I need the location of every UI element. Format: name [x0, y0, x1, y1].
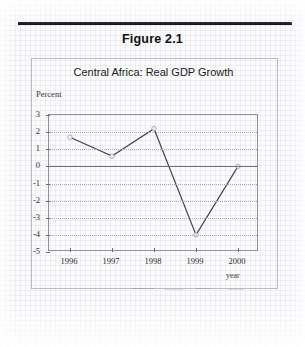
y-axis-tick-label: -1: [18, 178, 40, 188]
y-axis-tick: [46, 252, 50, 253]
x-axis-tick-label: 2000: [217, 256, 257, 266]
y-axis-tick-label: 2: [18, 126, 40, 136]
y-axis-tick-label: 3: [18, 109, 40, 119]
figure-number-title: Figure 2.1: [0, 32, 305, 46]
x-axis-tick-label: 1996: [49, 256, 89, 266]
x-axis-label: year: [226, 271, 240, 280]
gridline: [49, 235, 257, 236]
y-axis-tick: [46, 235, 50, 236]
gridline: [49, 218, 257, 219]
x-axis-tick: [196, 248, 197, 252]
y-axis-tick-label: -4: [18, 229, 40, 239]
y-axis-tick-label: -2: [18, 195, 40, 205]
plot-area: [48, 114, 258, 251]
gridline: [49, 132, 257, 133]
x-axis-tick: [154, 248, 155, 252]
y-axis-tick: [46, 218, 50, 219]
zero-line: [49, 166, 257, 167]
x-axis-tick-label: 1998: [133, 256, 173, 266]
x-axis-tick: [238, 248, 239, 252]
y-axis-tick-label: -5: [18, 246, 40, 256]
gridline: [49, 201, 257, 202]
x-axis-tick: [112, 248, 113, 252]
scan-artifact: [132, 288, 154, 289]
y-axis-tick: [46, 184, 50, 185]
y-axis-tick-label: 0: [18, 160, 40, 170]
data-point-marker: [152, 127, 156, 131]
scan-artifact: [165, 289, 183, 290]
x-axis-tick-label: 1997: [91, 256, 131, 266]
y-axis-tick: [46, 115, 50, 116]
x-axis-tick: [70, 248, 71, 252]
y-axis-tick: [46, 132, 50, 133]
gridline: [49, 184, 257, 185]
y-axis-tick: [46, 166, 50, 167]
chart-title: Central Africa: Real GDP Growth: [31, 66, 276, 78]
figure-page: Figure 2.1 Central Africa: Real GDP Grow…: [0, 0, 305, 347]
x-axis-tick-label: 1999: [175, 256, 215, 266]
scan-artifact: [228, 289, 244, 290]
data-point-marker: [68, 135, 72, 139]
y-axis-tick: [46, 149, 50, 150]
y-axis-label: Percent: [36, 89, 62, 99]
y-axis-tick-label: -3: [18, 212, 40, 222]
gridline: [49, 149, 257, 150]
scan-artifact: [196, 288, 210, 289]
data-point-marker: [110, 154, 114, 158]
top-horizontal-rule: [18, 22, 292, 25]
y-axis-tick-label: 1: [18, 143, 40, 153]
y-axis-tick: [46, 201, 50, 202]
